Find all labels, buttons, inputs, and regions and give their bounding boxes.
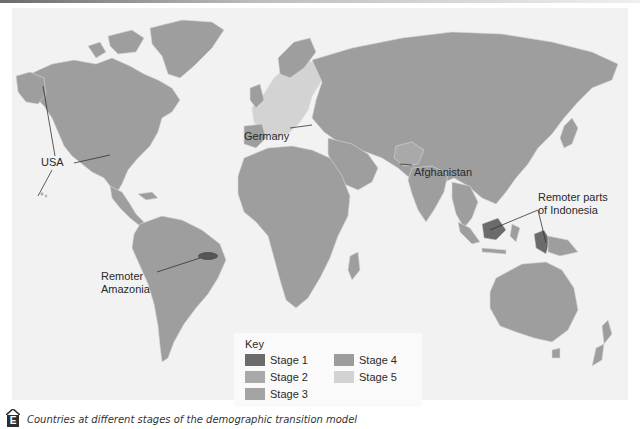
- figure-marker-icon: E: [6, 409, 20, 429]
- figure-caption: E Countries at different stages of the d…: [6, 410, 357, 428]
- sumatra: [458, 222, 480, 244]
- new-zealand: [602, 320, 612, 344]
- map-key: Key Stage 1 Stage 2 Stage 3 Stage 4 Stag…: [234, 333, 422, 407]
- figure-letter: E: [7, 415, 19, 427]
- stage-3-swatch: [245, 388, 265, 400]
- key-label: Stage 4: [359, 354, 397, 366]
- java: [482, 248, 506, 254]
- alaska: [16, 72, 46, 104]
- sulawesi: [510, 224, 520, 242]
- top-rule: [0, 0, 640, 3]
- new-guinea-west: [534, 230, 550, 254]
- label-indonesia-1: Remoter parts: [538, 191, 608, 204]
- key-item-stage-2: Stage 2: [245, 370, 308, 384]
- arctic-islands: [108, 30, 144, 54]
- madagascar: [348, 252, 360, 280]
- central-america: [110, 186, 144, 226]
- key-label: Stage 2: [270, 371, 308, 383]
- stage-4-swatch: [334, 354, 354, 366]
- caption-text: Countries at different stages of the dem…: [27, 414, 357, 425]
- label-amazonia-1: Remoter: [101, 270, 143, 283]
- borneo: [482, 218, 506, 240]
- stage-5-swatch: [334, 371, 354, 383]
- japan: [560, 118, 578, 148]
- key-item-stage-5: Stage 5: [334, 370, 397, 384]
- greenland: [150, 20, 224, 78]
- key-item-stage-4: Stage 4: [334, 353, 397, 367]
- new-guinea-east: [548, 236, 578, 256]
- key-item-stage-3: Stage 3: [245, 387, 308, 401]
- key-title: Key: [245, 338, 264, 350]
- label-germany: Germany: [244, 130, 289, 143]
- key-label: Stage 5: [359, 371, 397, 383]
- africa: [238, 146, 350, 308]
- australia: [490, 262, 578, 342]
- key-label: Stage 3: [270, 388, 308, 400]
- remoter-amazonia-region: [198, 252, 218, 260]
- label-indonesia-2: of Indonesia: [538, 204, 598, 217]
- label-afghanistan: Afghanistan: [414, 166, 472, 179]
- stage-2-swatch: [245, 371, 265, 383]
- label-amazonia-2: Amazonia: [101, 283, 150, 296]
- label-usa: USA: [41, 156, 64, 169]
- key-item-stage-1: Stage 1: [245, 353, 308, 367]
- key-label: Stage 1: [270, 354, 308, 366]
- stage-1-swatch: [245, 354, 265, 366]
- north-america: [26, 58, 180, 194]
